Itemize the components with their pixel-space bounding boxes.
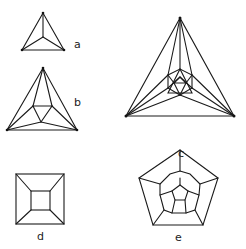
- label-a: a: [74, 39, 81, 50]
- figure-d-cube: [16, 174, 64, 224]
- figure-a-tetrahedron: [21, 12, 66, 52]
- label-c: c: [178, 148, 184, 159]
- figure-b-octahedron: [6, 67, 79, 132]
- label-d: d: [37, 231, 44, 242]
- label-e: e: [175, 232, 182, 243]
- figure-c-icosahedron: [125, 17, 236, 118]
- figure-e-dodecahedron: [139, 150, 218, 225]
- platonic-solids-diagram: [0, 0, 246, 249]
- label-b: b: [74, 97, 81, 108]
